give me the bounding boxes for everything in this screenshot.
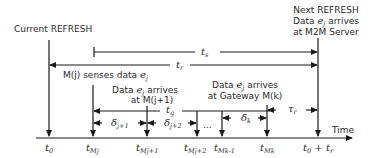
refresh-timeline-diagram: Time Current REFRESH Next REFRESH Data e… [0, 0, 371, 158]
tick-t0-plus-tr: t0 + tr [303, 142, 334, 155]
next-refresh-at-server: at M2M Server [293, 27, 359, 37]
ellipsis: ... [203, 120, 212, 130]
tick-tmj1: tMj+1 [136, 142, 158, 155]
delta-k-label: δk [241, 112, 251, 125]
tg-label: tg [166, 104, 174, 117]
tau-r-label: τr [288, 103, 298, 116]
delta-j1-label: δj+1 [111, 117, 129, 130]
tr-label: tr [176, 59, 184, 72]
time-axis-label: Time [331, 125, 354, 135]
mj-senses-label: M(j) senses data ej [63, 69, 148, 82]
tick-tmk1: tMk-1 [214, 142, 235, 155]
next-refresh-label: Next REFRESH [293, 5, 358, 15]
tick-tmj: tMj [86, 142, 99, 155]
arrive-mk-label-2: at Gateway M(k) [208, 91, 283, 101]
ts-label: ts [201, 46, 209, 59]
tick-tmj2: tMj+2 [184, 142, 206, 155]
current-refresh-label: Current REFRESH [14, 24, 92, 34]
tick-tmk: tMk [260, 142, 275, 155]
tick-t0: t0 [45, 142, 53, 155]
delta-j2-label: δj+2 [164, 117, 182, 130]
